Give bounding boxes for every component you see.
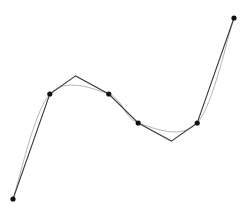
control-point-2 <box>47 91 52 96</box>
control-point-3 <box>106 91 111 96</box>
control-polyline <box>13 18 234 199</box>
control-point-4 <box>136 120 141 125</box>
control-point-1 <box>10 196 15 201</box>
spline-diagram <box>0 0 247 210</box>
control-point-6 <box>231 15 236 20</box>
control-point-5 <box>195 120 200 125</box>
